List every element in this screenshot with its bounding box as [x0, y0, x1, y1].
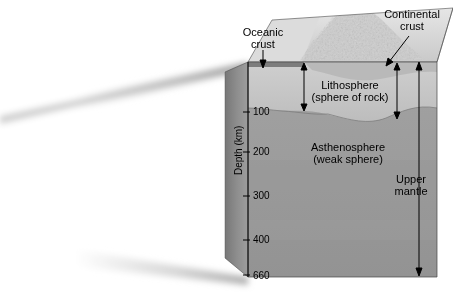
- perspective-cone: [0, 62, 248, 285]
- label-lithosphere: Lithosphere (sphere of rock): [300, 79, 400, 103]
- diagram-canvas: Oceanic crust Continental crust Lithosph…: [0, 0, 453, 293]
- label-asthenosphere: Asthenosphere (weak sphere): [293, 141, 403, 165]
- depth-tick-660: 660: [253, 271, 270, 281]
- depth-tick-400: 400: [253, 235, 270, 245]
- continental-crust-line2: crust: [400, 20, 424, 32]
- label-oceanic-crust: Oceanic crust: [231, 26, 295, 50]
- oceanic-crust-line2: crust: [251, 38, 275, 50]
- label-continental-crust: Continental crust: [372, 8, 452, 32]
- upper-mantle-line1: Upper: [396, 173, 426, 185]
- continental-crust-line1: Continental: [384, 8, 440, 20]
- lithosphere-line2: (sphere of rock): [311, 91, 388, 103]
- depth-tick-200: 200: [253, 147, 270, 157]
- asthenosphere-line2: (weak sphere): [313, 153, 383, 165]
- oceanic-crust-band: [248, 62, 304, 67]
- depth-axis-title: Depth (km): [233, 126, 244, 175]
- upper-mantle-line2: mantle: [394, 185, 427, 197]
- depth-tick-100: 100: [253, 107, 270, 117]
- depth-tick-300: 300: [253, 191, 270, 201]
- lithosphere-line1: Lithosphere: [321, 79, 379, 91]
- asthenosphere-line1: Asthenosphere: [311, 141, 385, 153]
- label-upper-mantle: Upper mantle: [385, 173, 437, 197]
- oceanic-crust-line1: Oceanic: [243, 26, 283, 38]
